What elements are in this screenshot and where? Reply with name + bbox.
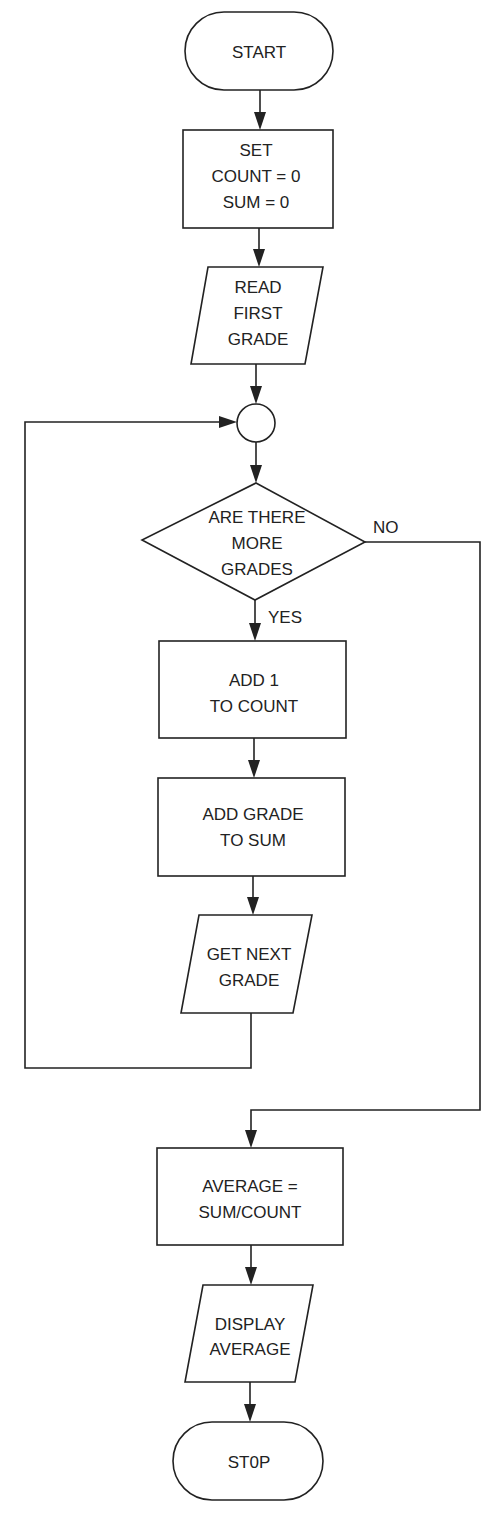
arrow-connector-to-decision xyxy=(250,442,262,483)
display-line-1: DISPLAY xyxy=(215,1315,286,1334)
display-line-2: AVERAGE xyxy=(210,1340,291,1359)
init-process-box: SET COUNT = 0 SUM = 0 xyxy=(183,130,333,228)
get-next-line-1: GET NEXT xyxy=(207,945,292,964)
get-next-line-2: GRADE xyxy=(219,971,279,990)
read-first-grade-io: READ FIRST GRADE xyxy=(191,267,323,364)
average-line-2: SUM/COUNT xyxy=(199,1203,302,1222)
decision-line-1: ARE THERE xyxy=(209,508,306,527)
connector-circle xyxy=(237,404,275,442)
flowchart: START SET COUNT = 0 SUM = 0 READ FIRST G… xyxy=(0,0,494,1521)
arrow-yes-to-add-count xyxy=(249,600,261,641)
add-sum-line-1: ADD GRADE xyxy=(202,805,303,824)
init-line-1: SET xyxy=(239,141,272,160)
init-line-3: SUM = 0 xyxy=(223,193,290,212)
arrow-add-sum-to-get-next xyxy=(247,876,259,915)
yes-label: YES xyxy=(268,608,302,627)
decision-diamond: ARE THERE MORE GRADES xyxy=(142,483,365,600)
no-label: NO xyxy=(373,518,399,537)
arrow-display-to-stop xyxy=(244,1382,256,1422)
arrow-add-count-to-add-sum xyxy=(248,738,260,778)
decision-line-2: MORE xyxy=(232,534,283,553)
add-count-line-2: TO COUNT xyxy=(210,697,298,716)
decision-line-3: GRADES xyxy=(221,560,293,579)
arrow-read-to-connector xyxy=(250,364,262,404)
stop-label: ST0P xyxy=(228,1453,271,1472)
stop-terminal: ST0P xyxy=(173,1422,323,1500)
start-terminal: START xyxy=(185,12,333,90)
start-label: START xyxy=(232,43,286,62)
average-line-1: AVERAGE = xyxy=(202,1177,298,1196)
add-sum-process-box: ADD GRADE TO SUM xyxy=(158,778,345,876)
average-process-box: AVERAGE = SUM/COUNT xyxy=(157,1148,343,1245)
init-line-2: COUNT = 0 xyxy=(212,167,301,186)
add-count-process-box: ADD 1 TO COUNT xyxy=(159,641,346,738)
display-average-io: DISPLAY AVERAGE xyxy=(185,1285,313,1382)
arrow-init-to-read xyxy=(253,228,265,267)
read-line-3: GRADE xyxy=(228,330,288,349)
arrow-start-to-init xyxy=(254,90,266,130)
arrow-average-to-display xyxy=(245,1245,257,1285)
add-sum-line-2: TO SUM xyxy=(220,831,286,850)
read-line-1: READ xyxy=(234,278,281,297)
read-line-2: FIRST xyxy=(233,304,282,323)
add-count-line-1: ADD 1 xyxy=(229,671,279,690)
get-next-grade-io: GET NEXT GRADE xyxy=(181,915,312,1013)
